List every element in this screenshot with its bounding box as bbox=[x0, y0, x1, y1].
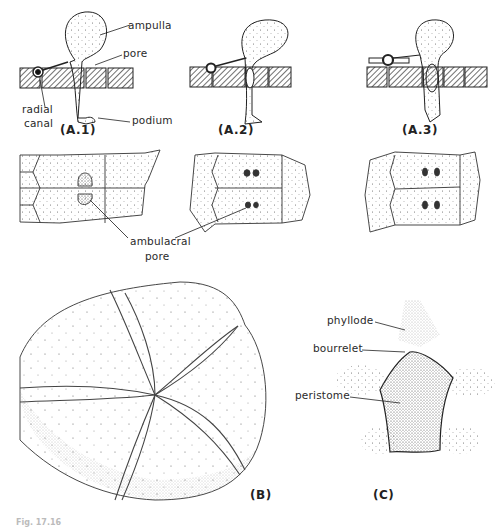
label-podium: podium bbox=[132, 114, 173, 126]
panel-label-a1: (A.1) bbox=[60, 123, 96, 137]
figure-illustration bbox=[0, 0, 503, 532]
diagram-a3 bbox=[367, 20, 487, 122]
label-bourrelet: bourrelet bbox=[313, 342, 363, 354]
ambulacral-plates-1 bbox=[20, 150, 160, 238]
label-radial-canal-line1: radial bbox=[22, 103, 53, 115]
figure-caption: Fig. 17.16 bbox=[16, 518, 61, 527]
sand-dollar-test bbox=[20, 282, 266, 500]
panel-label-b: (B) bbox=[250, 488, 272, 502]
label-ampulla: ampulla bbox=[128, 19, 172, 31]
diagram-a2 bbox=[190, 20, 291, 124]
label-pore: pore bbox=[123, 47, 147, 59]
label-radial-canal-line2: canal bbox=[24, 117, 53, 129]
panel-label-a3: (A.3) bbox=[402, 123, 438, 137]
panel-label-c: (C) bbox=[373, 488, 394, 502]
ambulacral-plates-3 bbox=[365, 152, 480, 232]
label-phyllode: phyllode bbox=[327, 314, 374, 326]
ambulacral-plates-2 bbox=[175, 153, 310, 238]
panel-label-a2: (A.2) bbox=[218, 123, 254, 137]
label-ambulacral-pore-line1: ambulacral bbox=[130, 235, 191, 247]
label-peristome: peristome bbox=[295, 389, 350, 401]
label-ambulacral-pore-line2: pore bbox=[145, 250, 169, 262]
